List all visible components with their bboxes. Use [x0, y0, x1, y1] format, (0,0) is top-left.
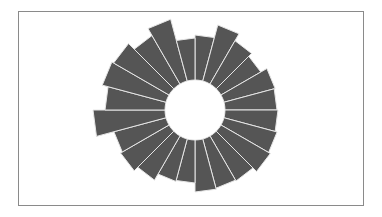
center-hole: [166, 81, 225, 140]
radial-bar-chart: [0, 0, 382, 217]
